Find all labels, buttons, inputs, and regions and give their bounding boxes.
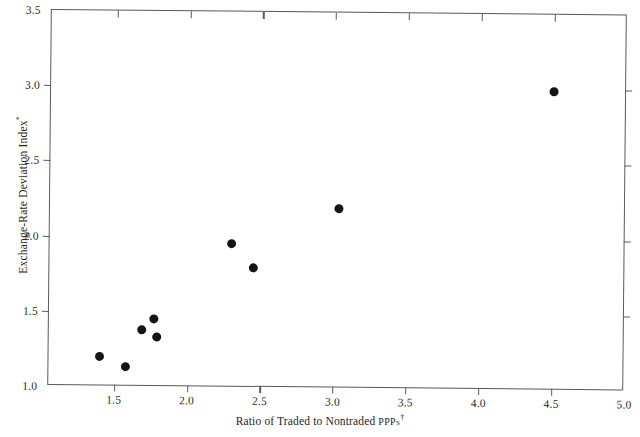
x-tick-mark bbox=[478, 388, 479, 395]
x-axis-title-acronym: PPPs bbox=[378, 416, 400, 427]
chart-canvas: 1.01.52.02.53.03.5 1.52.02.53.03.54.04.5… bbox=[0, 0, 640, 437]
scatter-points bbox=[52, 10, 626, 16]
y-axis-title-text: Exchange-Rate Deviation Index bbox=[17, 120, 29, 273]
x-tick-mark-top bbox=[482, 14, 483, 21]
x-tick-mark bbox=[405, 387, 406, 394]
x-tick-mark-top bbox=[117, 11, 118, 18]
x-tick-mark-top bbox=[190, 11, 191, 18]
data-point bbox=[138, 325, 147, 334]
y-tick-mark bbox=[44, 85, 51, 86]
y-tick-mark-right bbox=[624, 166, 631, 167]
x-tick-mark bbox=[260, 386, 261, 393]
x-axis-title: Ratio of Traded to Nontraded PPPs† bbox=[0, 413, 640, 427]
data-point bbox=[149, 315, 158, 324]
x-tick-mark bbox=[187, 385, 188, 392]
x-tick-mark bbox=[332, 387, 333, 394]
y-tick-mark bbox=[43, 235, 50, 236]
x-tick-label: 3.0 bbox=[325, 396, 340, 408]
data-point bbox=[227, 239, 236, 248]
y-tick-label: 1.0 bbox=[22, 380, 37, 392]
x-tick-mark-top bbox=[263, 12, 264, 19]
x-tick-label: 1.5 bbox=[106, 393, 121, 405]
x-tick-label: 4.5 bbox=[544, 398, 559, 410]
plot-frame: 1.01.52.02.53.03.5 1.52.02.53.03.54.04.5… bbox=[47, 9, 627, 391]
y-tick-mark-right bbox=[623, 316, 630, 317]
y-tick-mark-right bbox=[624, 241, 631, 242]
data-point bbox=[152, 333, 161, 342]
x-axis-title-text: Ratio of Traded to Nontraded bbox=[236, 415, 379, 427]
x-tick-label: 5.0 bbox=[617, 398, 632, 410]
y-axis-ticks: 1.01.52.02.53.03.5 bbox=[52, 10, 626, 16]
x-tick-mark-top bbox=[555, 15, 556, 22]
x-tick-mark-top bbox=[409, 13, 410, 20]
y-tick-label: 3.5 bbox=[26, 4, 41, 16]
x-tick-label: 3.5 bbox=[398, 396, 413, 408]
x-tick-label: 4.0 bbox=[471, 397, 486, 409]
y-axis-title-footnote-marker: * bbox=[15, 116, 24, 120]
x-axis-ticks: 1.52.02.53.03.54.04.55.0 bbox=[52, 10, 626, 16]
y-tick-label: 1.5 bbox=[23, 304, 38, 316]
y-tick-mark bbox=[42, 311, 49, 312]
x-tick-label: 2.0 bbox=[179, 394, 194, 406]
y-axis-title: Exchange-Rate Deviation Index* bbox=[15, 85, 29, 305]
data-point bbox=[334, 204, 343, 213]
x-tick-mark bbox=[551, 389, 552, 396]
x-tick-mark bbox=[114, 385, 115, 392]
y-tick-mark bbox=[43, 160, 50, 161]
data-point bbox=[121, 363, 130, 372]
data-point bbox=[550, 87, 559, 96]
x-tick-mark-top bbox=[336, 13, 337, 20]
data-point bbox=[95, 352, 104, 361]
x-axis-title-footnote-marker: † bbox=[400, 413, 404, 422]
y-tick-mark-right bbox=[625, 91, 632, 92]
x-tick-label: 2.5 bbox=[252, 395, 267, 407]
data-point bbox=[249, 263, 258, 272]
